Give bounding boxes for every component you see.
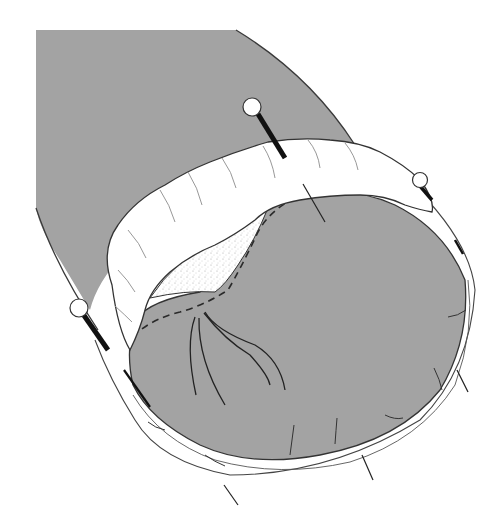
surgical-illustration: [0, 0, 503, 526]
pin-head-icon: [70, 299, 88, 317]
pin-head-icon: [243, 98, 261, 116]
pin-head-icon: [413, 173, 428, 188]
